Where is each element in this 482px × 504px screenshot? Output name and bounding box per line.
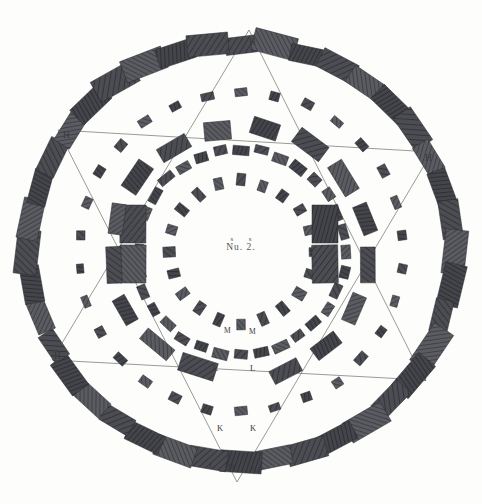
inner-stone <box>237 319 246 330</box>
trilithon-stone-left-lower <box>120 245 146 283</box>
plan-label-k-right: K <box>250 424 256 433</box>
outer-sarsen-stone <box>186 32 229 57</box>
bluestone <box>232 145 249 156</box>
center-caption: s s Nu. 2. <box>196 236 286 253</box>
marker-stone <box>234 406 247 416</box>
plan-label-k-left: K <box>217 424 223 433</box>
inner-stone <box>163 247 176 258</box>
horseshoe-sarsen <box>203 120 231 141</box>
stonehenge-plate: s s Nu. 2. HHHHHHIIKKLLMM <box>0 0 482 504</box>
plan-label-h-upper-right: H <box>425 154 432 164</box>
bluestone <box>341 245 351 259</box>
plan-label-i-bottom-right: I <box>251 462 254 472</box>
plan-label-m-right: M <box>249 328 256 336</box>
plan-label-h-top: H <box>249 38 256 48</box>
plan-label-h-lower-right: H <box>420 374 427 384</box>
marker-stone <box>76 264 84 274</box>
plan-label-h-lower-left: H <box>54 352 61 362</box>
trilithon-stone-right-upper <box>312 205 338 243</box>
marker-stone <box>397 263 408 274</box>
trilithon-stone-right-lower <box>312 245 339 283</box>
marker-stone <box>397 230 407 241</box>
plan-label-m-left: M <box>224 327 231 335</box>
plan-label-h-upper-left: H <box>63 131 70 141</box>
inner-stone <box>236 173 246 186</box>
center-caption-lower: Nu. 2. <box>196 243 286 253</box>
plan-label-l-left: L <box>213 364 218 373</box>
plan-label-l-right: L <box>250 364 255 373</box>
plan-label-i-bottom-left: I <box>209 461 212 470</box>
marker-stone <box>76 231 85 240</box>
bluestone <box>234 349 248 359</box>
plan-label-h-bottom: H <box>228 464 235 474</box>
horseshoe-sarsen <box>360 247 375 283</box>
horseshoe-sarsen <box>106 246 123 283</box>
marker-stone <box>234 88 247 97</box>
